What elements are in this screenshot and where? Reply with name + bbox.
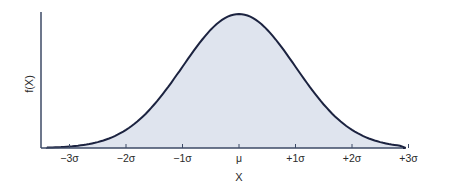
x-tick-label: −2σ [117, 152, 136, 164]
x-axis-tick-labels: −3σ−2σ−1σμ+1σ+2σ+3σ [60, 152, 418, 164]
curve-area-fill [47, 14, 406, 148]
normal-distribution-chart: −3σ−2σ−1σμ+1σ+2σ+3σ X f(X) [0, 0, 455, 188]
x-tick-label: +1σ [286, 152, 305, 164]
x-tick-label: −3σ [60, 152, 79, 164]
x-tick-label: +2σ [343, 152, 362, 164]
y-axis-title: f(X) [23, 75, 35, 93]
x-tick-label: μ [236, 152, 242, 164]
x-axis-title: X [235, 171, 243, 183]
x-tick-label: +3σ [399, 152, 418, 164]
x-tick-label: −1σ [173, 152, 192, 164]
